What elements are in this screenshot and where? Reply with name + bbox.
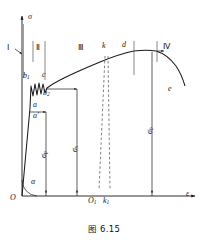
- point-label-e: e: [168, 85, 172, 93]
- stress-label-sigma-b: σb: [146, 127, 155, 134]
- point-label-c: c: [42, 71, 46, 79]
- sigma-b-sub: b: [148, 127, 154, 130]
- stress-label-sigma-p: σp: [40, 151, 49, 158]
- stage-label-3: Ⅲ: [78, 44, 84, 52]
- origin-label: O: [10, 194, 16, 202]
- point-label-a: a: [33, 101, 37, 109]
- tick-o1-sub: 1: [94, 199, 97, 205]
- tick-label-o1: O1: [88, 197, 97, 206]
- sigma-s-sub: s: [73, 146, 79, 148]
- sigma-b-base: σ: [145, 130, 154, 134]
- point-label-d: d: [122, 41, 126, 49]
- stress-strain-curve: [22, 50, 185, 196]
- stress-label-sigma-s: σs: [71, 146, 80, 152]
- point-label-b2: b2: [43, 89, 50, 98]
- dashed-line-k-to-k1: [108, 56, 110, 190]
- x-axis-label: ε: [186, 190, 189, 198]
- point-label-k: k: [102, 42, 106, 50]
- stage-label-1: Ⅰ: [7, 44, 9, 52]
- tick-k1-sub: 1: [107, 199, 110, 205]
- stress-strain-chart: [0, 0, 208, 244]
- sigma-s-base: σ: [70, 148, 79, 152]
- angle-alpha-label: α: [31, 178, 35, 186]
- tick-label-k1: k1: [103, 197, 109, 206]
- stage-label-2: Ⅱ: [36, 44, 40, 52]
- dashed-line-k-to-o1: [99, 56, 105, 190]
- stage-1-pointer: [15, 49, 22, 54]
- figure-container: σ ε O α Ⅰ Ⅱ Ⅲ Ⅳ b1 c b2 a a′ k d e O1 k1…: [0, 0, 208, 244]
- figure-caption: 图 6.15: [0, 222, 208, 234]
- point-label-b1: b1: [23, 72, 30, 81]
- sigma-p-sub: p: [42, 151, 48, 154]
- y-axis-label: σ: [28, 13, 32, 21]
- point-label-a-prime: a′: [33, 112, 39, 120]
- sigma-p-base: σ: [39, 154, 48, 158]
- point-b1-sub: 1: [27, 74, 30, 80]
- point-b2-sub: 2: [47, 91, 50, 97]
- stage-label-4: Ⅳ: [163, 43, 170, 51]
